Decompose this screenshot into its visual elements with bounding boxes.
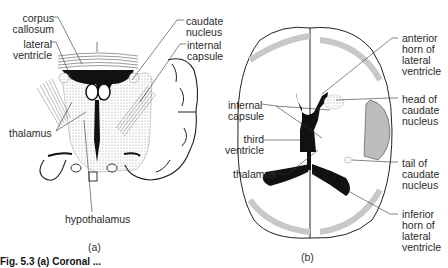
label-internal-capsule: internal capsule [187, 40, 223, 62]
label-caudate-nucleus: caudate nucleus [186, 16, 223, 38]
label-corpus-callosum: corpus callosum [10, 13, 54, 35]
figure-caption: Fig. 5.3 (a) Coronal ... [0, 256, 101, 267]
label-head-of-caudate: head of caudate nucleus [402, 94, 439, 127]
label-lateral-ventricle: lateral ventricle [10, 39, 52, 61]
label-inferior-horn: inferior horn of lateral ventricle [402, 209, 441, 253]
label-hypothalamus: hypothalamus [65, 214, 130, 225]
label-anterior-horn: anterior horn of lateral ventricle [402, 33, 441, 77]
coronal-section [37, 42, 198, 181]
label-tail-of-caudate: tail of caudate nucleus [402, 158, 439, 191]
label-thalamus-a: thalamus [9, 128, 52, 139]
label-internal-capsule-b: internal capsule [228, 100, 260, 122]
label-thalamus-b: thalamus [233, 169, 276, 180]
panel-a-caption: (a) [88, 241, 101, 253]
label-third-ventricle: third ventricle [224, 134, 264, 156]
panel-b-caption: (b) [301, 251, 314, 263]
